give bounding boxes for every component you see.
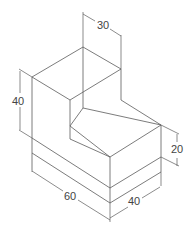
step-right-edge [121,100,161,125]
dim-label-60: 60 [64,190,76,202]
upper-top-face [32,47,121,100]
dimension-20: 20 [161,125,183,166]
dim-label-40-depth: 40 [128,195,140,207]
step-inner-edge [70,108,83,126]
dim-label-40-height: 40 [12,95,24,107]
dim-label-30: 30 [97,19,109,31]
dim-label-20: 20 [171,143,183,155]
dimension-40-height: 40 [12,69,32,138]
isometric-drawing: 30 40 20 60 40 [0,0,194,230]
step-back-edge [83,108,161,125]
inner-right-edge [110,157,161,188]
dimension-40-depth: 40 [110,172,161,218]
dimension-30: 30 [83,12,121,69]
object-edges [32,47,161,203]
lower-left-top [32,138,110,188]
lower-top-front [110,125,161,157]
